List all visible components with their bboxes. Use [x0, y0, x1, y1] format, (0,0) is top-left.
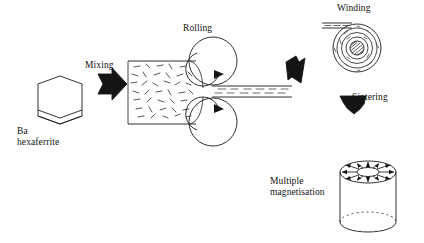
rolling-output-strip	[212, 86, 292, 97]
mixing-arrow-icon	[98, 68, 127, 100]
transfer-arrow-icon	[286, 56, 305, 83]
bottom-roller-icon	[186, 97, 237, 146]
sintering-arrow-icon	[340, 96, 366, 114]
hexaferrite-platelet-icon	[38, 76, 82, 124]
winding-spiral-icon	[333, 24, 381, 72]
figure-canvas: Ba hexaferrite Mixing Rolling Winding Si…	[0, 0, 424, 243]
magnetised-cylinder-icon	[340, 161, 396, 232]
top-roller-icon	[186, 37, 237, 86]
